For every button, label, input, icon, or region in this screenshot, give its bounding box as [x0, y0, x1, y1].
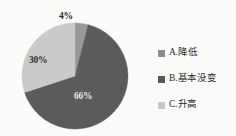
- pie-slice-label-c: 30%: [29, 56, 47, 66]
- pie-slice-group: [22, 23, 128, 129]
- pie-chart-svg: [0, 0, 150, 136]
- legend-swatch-icon-a: [158, 50, 165, 57]
- pie-slice-label-a: 4%: [59, 12, 73, 22]
- chart-legend: A.降低 B.基本没变 C.升高: [158, 40, 236, 118]
- chart-container: 4% 66% 30% A.降低 B.基本没变 C.升高: [0, 0, 236, 136]
- legend-item-b[interactable]: B.基本没变: [158, 66, 236, 92]
- legend-label-a: A.降低: [169, 48, 198, 58]
- legend-item-c[interactable]: C.升高: [158, 92, 236, 118]
- legend-label-c: C.升高: [169, 100, 197, 110]
- legend-swatch-icon-c: [158, 102, 165, 109]
- legend-item-a[interactable]: A.降低: [158, 40, 236, 66]
- legend-swatch-icon-b: [158, 76, 165, 83]
- pie-slice-label-b: 66%: [74, 92, 92, 102]
- legend-label-b: B.基本没变: [169, 74, 217, 84]
- pie-chart-area: 4% 66% 30%: [0, 0, 150, 136]
